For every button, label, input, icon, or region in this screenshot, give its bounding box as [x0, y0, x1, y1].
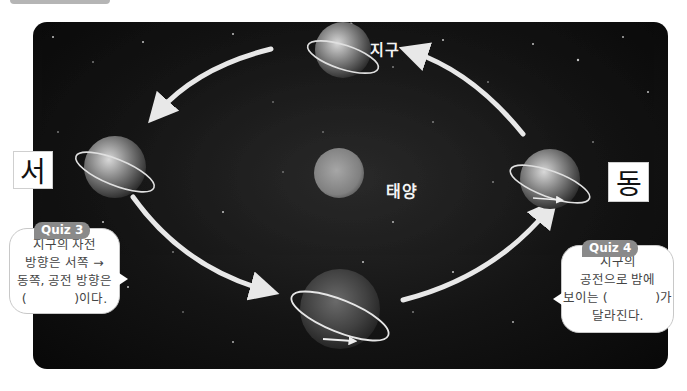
- quiz4-line-3: 보이는 ( )가: [562, 289, 673, 307]
- earth-left: [71, 136, 159, 200]
- arrow-top-to-left: [158, 49, 271, 112]
- quiz4-line-4: 달라진다.: [562, 307, 673, 325]
- quiz3-bubble-tail: [119, 273, 128, 285]
- west-label-box: 서: [13, 151, 53, 189]
- sun-label: 태양: [386, 178, 418, 202]
- sun: [314, 148, 364, 198]
- quiz3-line-3: 동쪽, 공전 방향은: [10, 272, 119, 290]
- arrow-right-to-top: [413, 52, 523, 134]
- quiz4-line-2: 공전으로 밤에: [562, 271, 673, 289]
- quiz3-line-2: 방향은 서쪽 →: [10, 254, 119, 272]
- arrow-left-to-bottom: [133, 197, 265, 290]
- quiz4-bubble-tail: [553, 293, 562, 305]
- quiz4-bubble: 지구의 공전으로 밤에 보이는 ( )가 달라진다.: [561, 245, 674, 333]
- top-tab-decoration: [10, 0, 110, 4]
- earth-bottom: [286, 269, 394, 350]
- east-label-box: 동: [608, 162, 649, 202]
- quiz3-bubble: 지구의 자전 방향은 서쪽 → 동쪽, 공전 방향은 ( )이다.: [9, 228, 120, 314]
- quiz3-badge: Quiz 3: [34, 222, 90, 239]
- quiz3-line-4: ( )이다.: [10, 290, 119, 308]
- arrow-bottom-to-right: [403, 210, 548, 300]
- quiz4-badge: Quiz 4: [582, 240, 638, 257]
- earth-right: [506, 149, 594, 211]
- earth-label: 지구: [370, 38, 400, 59]
